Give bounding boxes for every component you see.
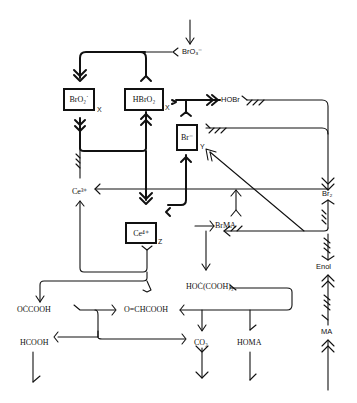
species-ma: MA (321, 328, 332, 336)
species-co2: CO₂ (194, 339, 208, 347)
hbro2-label: HBrO₂ (133, 95, 155, 104)
species-brma: BrMA (215, 222, 236, 230)
species-glyoxylic-acid: O=CHCOOH (124, 306, 168, 314)
species-bro3: BrO₃⁻ (182, 48, 202, 56)
species-hobr: HOBr (221, 96, 240, 104)
hbro2-tag: X (165, 104, 170, 111)
species-ce3: Ce³⁺ (72, 188, 87, 196)
box-bro2-radical: BrO₂˙ (63, 88, 95, 111)
species-hoc-cooh2: HOĊ(COOH)₂ (186, 283, 234, 291)
ce4-tag: Z (158, 238, 162, 245)
bro2-label: BrO₂˙ (69, 95, 88, 104)
to-hbro2-line (140, 52, 146, 76)
ce4-label: Ce⁴⁺ (133, 229, 149, 238)
species-occooh: OĊCOOH (17, 306, 51, 314)
box-ce4: Ce⁴⁺ (125, 222, 157, 244)
bromide-tag: Y (200, 143, 205, 150)
species-br2: Br₂ (322, 190, 332, 198)
bromide-label: Br⁻ (181, 133, 193, 142)
species-enol: Enol (316, 263, 331, 271)
species-homa: HOMA (237, 339, 261, 347)
species-hcooh: HCOOH (20, 339, 48, 347)
mechanism-diagram-lines (0, 0, 357, 403)
bro2-tag: X (97, 106, 102, 113)
box-bromide: Br⁻ (176, 124, 198, 151)
to-bro2-line (80, 52, 145, 78)
box-hbro2: HBrO₂ (124, 88, 164, 111)
